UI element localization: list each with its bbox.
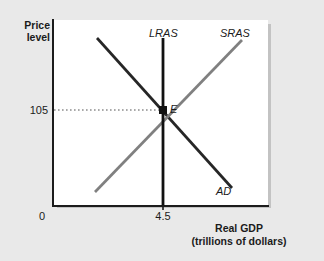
y-axis-title-line1: Price <box>24 19 50 31</box>
x-axis-origin-label: 0 <box>33 210 51 222</box>
y-axis-title-line2: level <box>27 31 50 43</box>
equilibrium-point-marker <box>159 106 167 114</box>
equilibrium-point-label: E <box>170 103 177 115</box>
sras-curve-label: SRAS <box>220 27 250 39</box>
sras-curve <box>95 40 242 192</box>
y-axis-title: Price level <box>12 19 50 43</box>
ad-curve-label: AD <box>216 185 231 197</box>
x-axis-title: Real GDP (trillions of dollars) <box>158 222 320 248</box>
x-axis-title-line2: (trillions of dollars) <box>191 235 286 247</box>
x-axis-title-line1: Real GDP <box>215 222 263 234</box>
y-axis-tick-label-105: 105 <box>10 104 48 116</box>
lras-curve-label: LRAS <box>149 27 178 39</box>
x-axis-tick-label-4-5: 4.5 <box>147 210 179 222</box>
macro-equilibrium-figure: Price level 105 0 4.5 Real GDP (trillion… <box>0 0 324 261</box>
